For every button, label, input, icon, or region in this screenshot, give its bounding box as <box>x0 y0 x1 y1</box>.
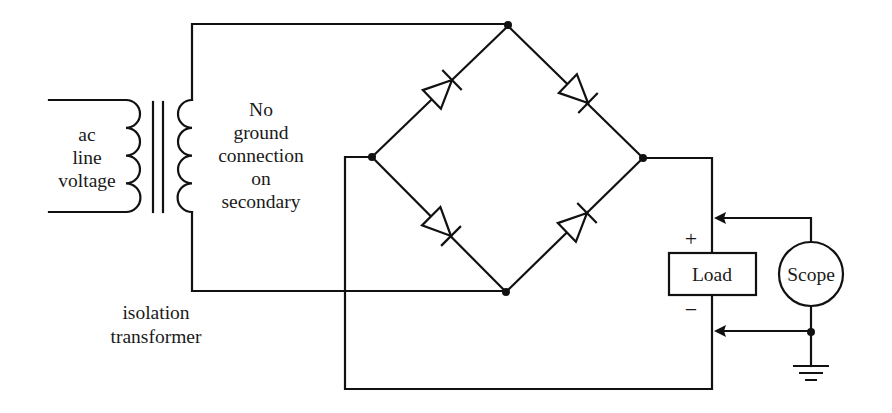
svg-text:No: No <box>249 99 273 120</box>
svg-text:isolation: isolation <box>122 302 189 323</box>
svg-text:secondary: secondary <box>221 191 300 212</box>
minus-sign: − <box>685 297 697 322</box>
plus-sign: + <box>685 226 697 251</box>
node-bottom <box>502 288 510 296</box>
primary-coil <box>126 100 140 212</box>
primary-label: ac line voltage <box>58 124 115 191</box>
svg-text:connection: connection <box>218 145 304 166</box>
svg-text:ground: ground <box>233 122 288 143</box>
return-wire <box>345 157 712 389</box>
ground-icon <box>793 366 829 380</box>
scope-label: Scope <box>787 264 835 285</box>
load-label: Load <box>692 264 732 285</box>
scope-probe-top-wire <box>720 218 811 242</box>
svg-text:on: on <box>251 168 271 189</box>
secondary-coil <box>178 100 192 212</box>
node-top <box>504 21 512 29</box>
positive-output-wire <box>643 158 712 253</box>
svg-text:transformer: transformer <box>111 326 202 347</box>
secondary-bottom-wire <box>192 212 506 291</box>
transformer-label: isolation transformer <box>111 302 202 347</box>
svg-text:ac: ac <box>78 124 96 145</box>
bridge-rectifier-diagram: Load + − Scope ac line voltage No ground… <box>0 0 892 413</box>
svg-text:line: line <box>72 147 101 168</box>
secondary-note-label: No ground connection on secondary <box>218 99 304 212</box>
scope-probe-bottom-wire <box>720 306 811 331</box>
svg-text:voltage: voltage <box>58 170 115 191</box>
